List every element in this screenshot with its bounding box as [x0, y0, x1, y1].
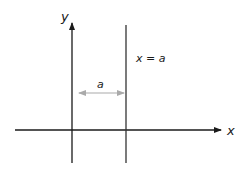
distance-label: a	[97, 78, 104, 91]
line-label: x = a	[135, 52, 166, 65]
y-axis-label: y	[60, 9, 69, 24]
coordinate-diagram: y x x = a a	[0, 0, 244, 176]
x-axis-label: x	[226, 123, 235, 138]
